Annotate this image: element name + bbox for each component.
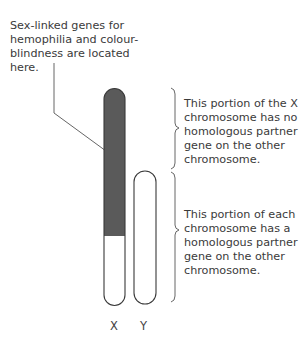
lower-brace	[171, 172, 179, 302]
x-chromosome	[104, 86, 125, 308]
x-homologous-region	[104, 236, 125, 308]
leader-line	[54, 63, 106, 151]
x-nonhomologous-region	[104, 86, 125, 236]
y-chromosome-label: Y	[140, 319, 147, 333]
y-chromosome	[134, 171, 156, 304]
x-chromosome-label: X	[110, 319, 118, 333]
homologous-annotation: This portion of each chromosome has a ho…	[184, 208, 306, 278]
sex-linked-genes-annotation: Sex-linked genes for hemophilia and colo…	[10, 19, 140, 75]
upper-brace	[171, 88, 179, 169]
non-homologous-annotation: This portion of the X chromosome has no …	[184, 97, 306, 167]
